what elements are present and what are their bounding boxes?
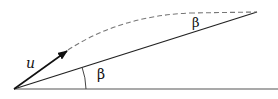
trajectory-horizontal	[190, 12, 257, 13]
incline-angle-label: β	[97, 66, 105, 82]
trajectory-curve	[68, 13, 190, 50]
angle-arc	[82, 67, 86, 89]
incline-line	[14, 12, 257, 89]
projectile-incline-diagram: u β β	[0, 0, 278, 99]
velocity-label: u	[26, 55, 35, 71]
apex-angle-label: β	[192, 15, 200, 30]
velocity-arrow	[14, 51, 67, 89]
